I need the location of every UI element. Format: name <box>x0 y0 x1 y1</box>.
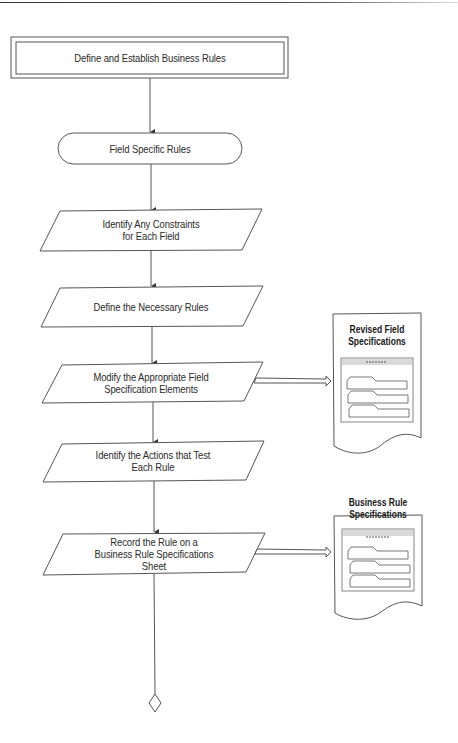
title-line: Specifications <box>340 336 415 348</box>
label-line: for Each Field <box>60 230 242 242</box>
record-rule-label: Record the Rule on a Business Rule Speci… <box>63 536 245 572</box>
label-line: Record the Rule on a <box>63 536 245 548</box>
title-line: Business Rule <box>341 497 416 509</box>
off-page-connector-diamond <box>149 694 161 712</box>
label-line: Sheet <box>63 560 245 572</box>
label-line: Modify the Appropriate Field <box>60 371 242 383</box>
data-flow-arrows <box>254 376 331 557</box>
modify-elements-label: Modify the Appropriate Field Specificati… <box>60 371 242 395</box>
label-line: Identify Any Constraints <box>60 218 242 230</box>
business-rule-specs-document <box>334 515 422 619</box>
title-line: Revised Field <box>340 324 415 336</box>
field-specific-rules-label: Field Specific Rules <box>67 143 233 155</box>
title-line: Specifications <box>341 509 416 521</box>
define-rules-label: Define the Necessary Rules <box>60 301 242 313</box>
revised-field-specs-title: Revised Field Specifications <box>340 324 415 348</box>
business-rule-specs-title: Business Rule Specifications <box>341 497 416 521</box>
label-line: Define the Necessary Rules <box>60 301 242 313</box>
identify-constraints-label: Identify Any Constraints for Each Field <box>60 218 242 242</box>
label-line: Each Rule <box>62 461 244 473</box>
label-line: Identify the Actions that Test <box>62 449 244 461</box>
label-line: Business Rule Specifications <box>63 548 245 560</box>
identify-actions-label: Identify the Actions that Test Each Rule <box>62 449 244 473</box>
start-process-label: Define and Establish Business Rules <box>29 52 270 64</box>
label-line: Specification Elements <box>60 383 242 395</box>
